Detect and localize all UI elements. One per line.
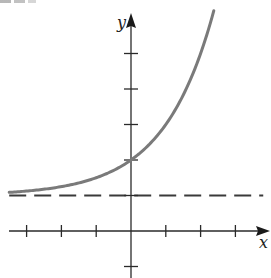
axes [9,13,270,278]
exponential-graph: y x [0,0,271,278]
y-axis-arrow-icon [126,13,136,28]
x-axis-label: x [259,233,268,252]
exponential-curve [9,11,214,193]
y-axis-label: y [116,13,127,32]
